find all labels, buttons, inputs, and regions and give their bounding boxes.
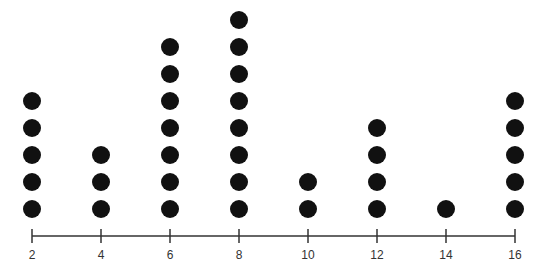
data-dot — [506, 173, 524, 191]
data-dot — [230, 119, 248, 137]
data-dot — [23, 92, 41, 110]
data-dot — [23, 200, 41, 218]
data-dot — [368, 146, 386, 164]
data-dot — [368, 119, 386, 137]
data-dot — [506, 92, 524, 110]
data-dot — [161, 92, 179, 110]
data-dot — [368, 173, 386, 191]
data-dot — [230, 65, 248, 83]
data-dot — [230, 11, 248, 29]
data-dot — [230, 200, 248, 218]
data-dot — [161, 38, 179, 56]
data-dot — [230, 173, 248, 191]
data-dot — [368, 200, 386, 218]
data-dot — [92, 200, 110, 218]
data-dot — [506, 146, 524, 164]
data-dot — [161, 146, 179, 164]
data-dot — [161, 119, 179, 137]
x-tick-label: 12 — [370, 248, 384, 262]
x-tick-label: 8 — [236, 248, 243, 262]
data-dot — [92, 146, 110, 164]
data-dot — [161, 200, 179, 218]
data-dot — [230, 92, 248, 110]
x-tick-label: 16 — [508, 248, 522, 262]
x-tick-label: 4 — [98, 248, 105, 262]
data-dot — [23, 146, 41, 164]
data-dot — [230, 146, 248, 164]
data-dot — [161, 65, 179, 83]
x-tick-label: 14 — [439, 248, 453, 262]
data-dot — [506, 200, 524, 218]
data-dot — [161, 173, 179, 191]
data-dot — [92, 173, 110, 191]
data-dot — [437, 200, 455, 218]
x-tick-label: 10 — [301, 248, 315, 262]
data-dot — [299, 173, 317, 191]
data-dot — [23, 119, 41, 137]
x-tick-label: 2 — [29, 248, 36, 262]
data-dot — [299, 200, 317, 218]
data-dot — [230, 38, 248, 56]
data-dot — [506, 119, 524, 137]
x-axis-ticks: 246810121416 — [29, 229, 522, 262]
dot-plot: 246810121416 — [0, 0, 543, 278]
x-tick-label: 6 — [167, 248, 174, 262]
data-dot — [23, 173, 41, 191]
dot-columns — [23, 11, 524, 218]
